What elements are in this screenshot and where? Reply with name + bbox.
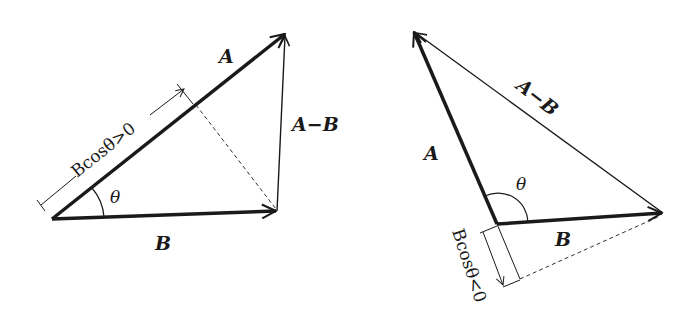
bracket-line-right xyxy=(483,232,503,285)
projection-dashed-left xyxy=(196,105,276,209)
bracket-line-b-left xyxy=(150,89,184,115)
label-theta-left: θ xyxy=(110,187,120,207)
label-a-minus-b-left: A−B xyxy=(290,113,339,135)
label-a-right: A xyxy=(422,142,439,164)
label-b-right: B xyxy=(554,228,571,250)
vector-b-left xyxy=(52,211,276,219)
right-diagram: A B A−B θ Bcosθ<0 xyxy=(414,32,663,305)
bracket-tick-start-right xyxy=(480,226,497,233)
left-diagram: A B A−B θ Bcosθ>0 xyxy=(37,34,339,254)
bracket-tick-start-left xyxy=(37,200,45,211)
bracket-line-a-left xyxy=(41,176,76,205)
bracket-tick-end-right xyxy=(503,280,520,287)
label-projection-left: Bcosθ>0 xyxy=(67,118,139,181)
vector-a-right xyxy=(414,32,497,224)
label-projection-right: Bcosθ<0 xyxy=(448,226,491,305)
a-extension-right xyxy=(497,224,520,279)
projection-dashed-right xyxy=(520,216,660,279)
angle-arc-left xyxy=(92,188,104,217)
bracket-tick-end-left xyxy=(177,84,193,104)
vector-a-minus-b-left xyxy=(277,36,285,211)
label-a-left: A xyxy=(217,45,234,67)
label-b-left: B xyxy=(154,232,171,254)
label-a-minus-b-right: A−B xyxy=(511,73,563,120)
vector-diagram: A B A−B θ Bcosθ>0 A B A−B θ Bcosθ<0 xyxy=(0,0,691,330)
vector-b-right xyxy=(497,213,662,224)
label-theta-right: θ xyxy=(516,174,526,194)
vector-a-left xyxy=(52,34,285,219)
